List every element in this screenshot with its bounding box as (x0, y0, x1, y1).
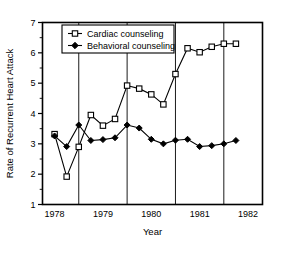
data-point (76, 144, 81, 149)
x-tick-label-4: 1982 (238, 209, 258, 219)
data-point (112, 116, 117, 121)
data-point (221, 41, 226, 46)
y-tick-label-3: 4 (30, 109, 35, 119)
x-tick-label-1: 1979 (93, 209, 113, 219)
data-point (185, 46, 190, 51)
y-tick-label-6: 7 (30, 18, 35, 28)
data-point (124, 83, 129, 88)
data-point (88, 112, 93, 117)
legend-label: Behavioral counseling (87, 41, 175, 51)
y-tick-label-2: 3 (30, 139, 35, 149)
data-point (233, 41, 238, 46)
data-point (64, 174, 69, 179)
x-axis-title: Year (143, 226, 162, 237)
y-tick-label-4: 5 (30, 78, 35, 88)
data-point (173, 71, 178, 76)
chart-legend[interactable]: Cardiac counselingBehavioral counseling (62, 25, 175, 53)
y-tick-label-5: 6 (30, 48, 35, 58)
x-tick-label-0: 1978 (45, 209, 65, 219)
line-chart: 1234567 19781979198019811982 Cardiac cou… (0, 0, 285, 259)
x-tick-label-2: 1980 (141, 209, 161, 219)
open-square-icon (72, 31, 77, 36)
data-point (161, 102, 166, 107)
data-point (209, 44, 214, 49)
data-point (100, 123, 105, 128)
y-axis-title: Rate of Recurrent Heart Attack (4, 49, 15, 179)
data-point (197, 50, 202, 55)
data-point (137, 86, 142, 91)
x-tick-label-3: 1981 (190, 209, 210, 219)
y-tick-label-0: 1 (30, 200, 35, 210)
data-point (149, 92, 154, 97)
chart-figure: 1234567 19781979198019811982 Cardiac cou… (0, 0, 285, 259)
legend-label: Cardiac counseling (87, 29, 164, 39)
y-tick-label-1: 2 (30, 169, 35, 179)
